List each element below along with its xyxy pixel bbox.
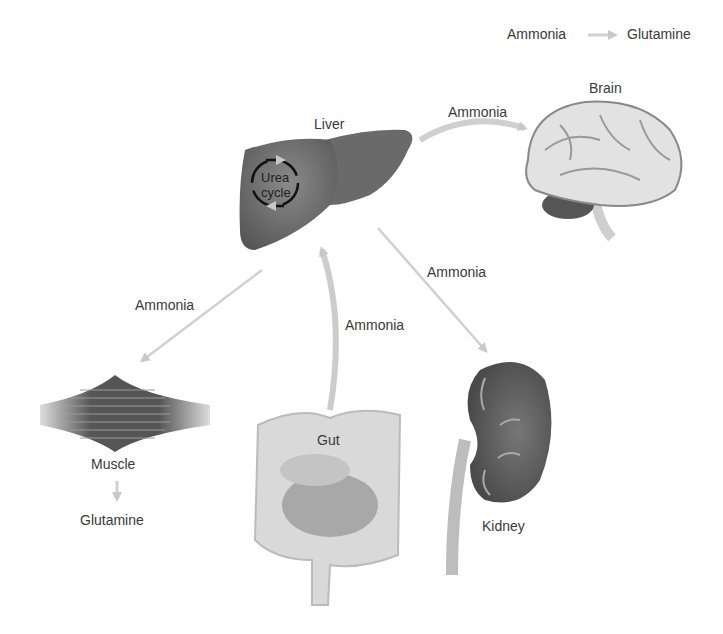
legend-from-label: Ammonia — [507, 26, 566, 42]
brain-label: Brain — [589, 80, 622, 96]
legend-to-label: Glutamine — [627, 26, 691, 42]
arrow-label-liver-muscle: Ammonia — [135, 297, 194, 313]
arrow-label-liver-brain: Ammonia — [448, 104, 507, 120]
brain-illustration — [526, 102, 681, 238]
muscle-product-label: Glutamine — [80, 512, 144, 528]
muscle-illustration — [40, 375, 210, 452]
arrow-liver-to-brain — [420, 121, 524, 140]
urea-cycle-label-line2: cycle — [261, 185, 291, 200]
urea-cycle-label-line1: Urea — [261, 170, 289, 185]
muscle-label: Muscle — [91, 456, 135, 472]
arrow-gut-to-liver — [322, 250, 336, 410]
arrow-label-liver-kidney: Ammonia — [427, 264, 486, 280]
arrow-label-gut-liver: Ammonia — [345, 317, 404, 333]
gut-label: Gut — [317, 432, 340, 448]
arrow-liver-to-muscle — [143, 270, 262, 360]
liver-label: Liver — [314, 116, 344, 132]
kidney-label: Kidney — [482, 518, 525, 534]
kidney-illustration — [452, 362, 551, 575]
